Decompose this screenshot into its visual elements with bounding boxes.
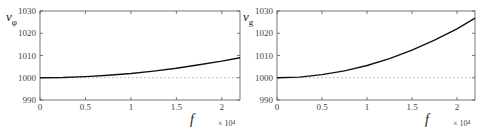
data-curve: [277, 18, 475, 78]
y-tick-label: 1000: [18, 73, 37, 83]
axes-frame: [277, 11, 475, 100]
subplot-v_g: 990100010101020103000.511.52vgf× 10⁴: [243, 6, 475, 128]
y-tick-label: 990: [260, 95, 274, 105]
y-tick-label: 1010: [255, 51, 274, 61]
y-tick-label: 1020: [255, 28, 274, 38]
x-tick-label: 0.5: [316, 102, 328, 112]
x-tick-label: 2: [220, 102, 225, 112]
x-tick-label: 1.5: [171, 102, 183, 112]
y-axis-label: vφ: [6, 9, 17, 27]
y-tick-label: 1000: [255, 73, 274, 83]
x-tick-label: 1.5: [406, 102, 418, 112]
axes-frame: [40, 11, 240, 100]
x-axis-label: f: [190, 112, 196, 127]
x-tick-label: 0: [38, 102, 43, 112]
x-axis-label: f: [425, 112, 431, 127]
x-tick-label: 1: [365, 102, 370, 112]
x-axis-multiplier: × 10⁴: [453, 119, 471, 128]
chart-figure: 990100010101020103000.511.52vφf× 10⁴9901…: [0, 0, 487, 131]
y-tick-label: 1020: [18, 28, 37, 38]
y-tick-label: 1010: [18, 51, 37, 61]
x-tick-label: 0.5: [80, 102, 92, 112]
y-axis-label: vg: [243, 9, 254, 27]
x-tick-label: 0: [275, 102, 280, 112]
data-curve: [40, 58, 240, 78]
x-tick-label: 2: [455, 102, 460, 112]
y-tick-label: 1030: [18, 6, 37, 16]
y-tick-label: 990: [23, 95, 37, 105]
subplot-v_phi: 990100010101020103000.511.52vφf× 10⁴: [6, 6, 240, 128]
x-tick-label: 1: [129, 102, 134, 112]
x-axis-multiplier: × 10⁴: [218, 119, 236, 128]
y-tick-label: 1030: [255, 6, 274, 16]
